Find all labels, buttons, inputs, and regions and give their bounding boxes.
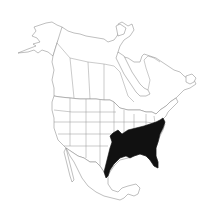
range-map xyxy=(0,0,209,221)
